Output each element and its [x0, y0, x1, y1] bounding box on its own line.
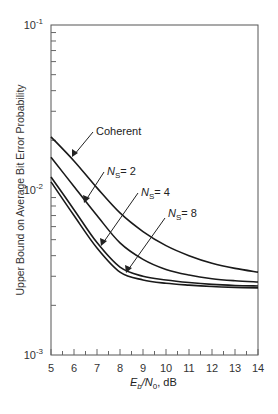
x-tick-label: 14: [252, 362, 264, 374]
annotation-coherent: Coherent: [72, 125, 141, 157]
annotation-coherent-label: Coherent: [96, 125, 141, 137]
arrow-icon: [72, 149, 78, 157]
x-axis-label: Eb/N0, dB: [130, 376, 177, 391]
x-axis-ticks: 567891011121314: [48, 349, 264, 374]
x-tick-label: 5: [48, 362, 54, 374]
x-tick-label: 9: [140, 362, 146, 374]
curve-n-s-2: [51, 157, 258, 282]
svg-text:NS= 8: NS= 8: [168, 207, 197, 222]
annotation-ns4: NS= 4: [100, 186, 170, 246]
y-axis-label: Upper Bound on Average Bit Error Probabi…: [14, 84, 26, 296]
y-tick-label: 10-2: [24, 182, 44, 196]
y-tick-label: 10-3: [24, 347, 44, 361]
annotation-ns8: NS= 8: [125, 207, 197, 273]
x-tick-label: 8: [117, 362, 123, 374]
svg-text:NS= 4: NS= 4: [141, 186, 170, 201]
chart: 10-110-210-3 567891011121314 Upper Bound…: [0, 0, 278, 414]
x-tick-label: 10: [160, 362, 172, 374]
x-tick-label: 11: [183, 362, 194, 374]
x-tick-label: 6: [71, 362, 77, 374]
curve-coherent: [51, 137, 258, 272]
x-tick-label: 12: [206, 362, 218, 374]
data-curves: [51, 137, 258, 288]
y-tick-label: 10-1: [24, 17, 44, 31]
x-tick-label: 13: [229, 362, 241, 374]
svg-text:NS= 2: NS= 2: [107, 165, 136, 180]
x-tick-label: 7: [94, 362, 100, 374]
annotation-ns2: NS= 2: [83, 165, 136, 203]
